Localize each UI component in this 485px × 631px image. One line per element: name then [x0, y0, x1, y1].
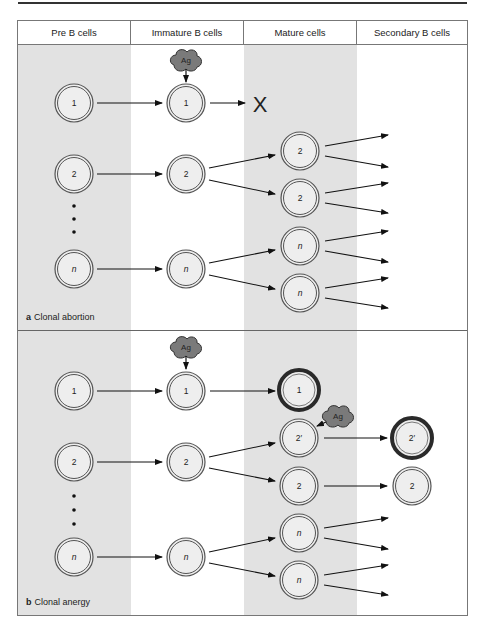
svg-text:2: 2 — [72, 169, 77, 179]
svg-text:1: 1 — [184, 98, 189, 108]
svg-text:2: 2 — [410, 481, 415, 491]
antigen-label-b: Ag — [181, 343, 191, 352]
cell-a-pre-n: n — [55, 250, 93, 288]
svg-text:2: 2 — [184, 457, 189, 467]
svg-text:2: 2 — [72, 457, 77, 467]
svg-text:n: n — [298, 241, 303, 251]
antigen-cloud-b: Ag — [170, 337, 201, 369]
cell-b-secondary-2prime-anergic: 2′ — [392, 418, 432, 458]
cell-b-mature-2: 2 — [280, 467, 318, 505]
svg-text:1: 1 — [297, 385, 302, 395]
cell-a-mature-2a: 2 — [281, 132, 319, 170]
svg-text:n: n — [297, 575, 302, 585]
antigen-cloud-a: Ag — [170, 50, 201, 82]
cell-b-pre-2: 2 — [55, 443, 93, 481]
cell-diagram: Ag 1 1 X 2 2 2 2 — [0, 0, 485, 631]
cell-b-pre-1: 1 — [55, 372, 93, 410]
cell-b-mature-1-anergic: 1 — [279, 370, 319, 410]
svg-text:n: n — [184, 552, 189, 562]
cell-b-secondary-2: 2 — [393, 467, 431, 505]
cell-b-immature-2: 2 — [167, 443, 205, 481]
ellipsis-dots-b — [72, 494, 76, 526]
cell-b-mature-na: n — [280, 514, 318, 552]
cell-a-mature-nb: n — [281, 274, 319, 312]
cell-a-immature-n: n — [167, 250, 205, 288]
svg-text:2: 2 — [298, 193, 303, 203]
svg-text:1: 1 — [72, 386, 77, 396]
svg-text:1: 1 — [184, 386, 189, 396]
svg-text:1: 1 — [72, 98, 77, 108]
svg-text:n: n — [72, 264, 77, 274]
antigen-label-b2: Ag — [333, 412, 343, 421]
cell-a-pre-2: 2 — [55, 155, 93, 193]
svg-text:n: n — [298, 288, 303, 298]
svg-text:2: 2 — [298, 146, 303, 156]
svg-text:2: 2 — [184, 169, 189, 179]
cell-b-pre-n: n — [55, 538, 93, 576]
svg-text:n: n — [297, 528, 302, 538]
cell-a-mature-na: n — [281, 227, 319, 265]
deleted-marker-x: X — [253, 92, 268, 117]
cell-b-immature-n: n — [167, 538, 205, 576]
cell-a-pre-1: 1 — [55, 84, 93, 122]
cell-b-immature-1: 1 — [167, 372, 205, 410]
cell-a-mature-2b: 2 — [281, 179, 319, 217]
svg-text:n: n — [72, 552, 77, 562]
ellipsis-dots-a — [72, 204, 76, 234]
cell-a-immature-2: 2 — [167, 155, 205, 193]
antigen-label-a: Ag — [181, 56, 191, 65]
svg-text:2′: 2′ — [296, 433, 303, 443]
svg-text:n: n — [184, 264, 189, 274]
svg-text:2′: 2′ — [409, 433, 416, 443]
cell-b-mature-2prime: 2′ — [280, 419, 318, 457]
cell-b-mature-nb: n — [280, 561, 318, 599]
cell-a-immature-1: 1 — [167, 84, 205, 122]
svg-text:2: 2 — [297, 481, 302, 491]
antigen-cloud-b2: Ag — [317, 406, 354, 427]
